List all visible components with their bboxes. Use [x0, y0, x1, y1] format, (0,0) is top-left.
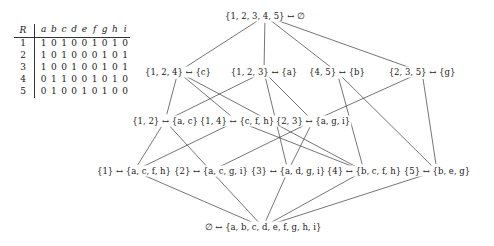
lattice-node-l3b[interactable]: {1, 4} ↔ {c, f, h}	[198, 116, 275, 127]
lattice-node-top[interactable]: {1, 2, 3, 4, 5} ↔ ∅	[224, 11, 307, 22]
lattice-node-l2c[interactable]: {4, 5} ↔ {b}	[308, 67, 367, 78]
lattice-node-l3a[interactable]: {1, 2} ↔ {a, c}	[131, 116, 200, 127]
lattice-node-l4c[interactable]: {3} ↔ {a, d, g, i}	[249, 166, 326, 177]
lattice-node-bot[interactable]: ∅ ↔ {a, b, c, d, e, f, g, h, i}	[203, 222, 323, 233]
lattice-edge	[140, 124, 230, 168]
lattice-edge	[269, 174, 358, 223]
lattice-edge	[271, 20, 332, 67]
lattice-node-l2d[interactable]: {2, 3, 5} ↔ {g}	[387, 67, 457, 78]
lattice-node-l4d[interactable]: {4} ↔ {b, c, f, h}	[325, 166, 402, 177]
lattice-edge	[291, 127, 310, 164]
lattice-edge	[167, 79, 176, 114]
lattice-edge	[216, 176, 258, 222]
lattice-edge	[140, 174, 256, 224]
lattice-edge	[184, 20, 259, 68]
lattice-node-l2a[interactable]: {1, 2, 4} ↔ {c}	[144, 67, 213, 78]
lattice-node-l2b[interactable]: {1, 2, 3} ↔ {a}	[229, 67, 298, 78]
lattice-node-l3c[interactable]: {2, 3} ↔ {a, g, i}	[274, 116, 351, 127]
lattice-edge	[272, 18, 416, 69]
lattice-edge	[264, 23, 265, 65]
lattice-edge	[423, 79, 436, 164]
lattice-edge	[170, 126, 207, 166]
lattice-edge	[171, 75, 257, 118]
lattice-node-l4b[interactable]: {2} ↔ {a, c, g, i}	[173, 166, 250, 177]
lattice-node-l4a[interactable]: {1} ↔ {a, c, f, h}	[96, 166, 173, 177]
lattice-edge	[266, 177, 285, 220]
lattice-node-l4e[interactable]: {5} ↔ {b, e, g}	[402, 166, 471, 177]
lattice-edge	[270, 173, 431, 225]
lattice-edge	[342, 77, 432, 166]
lattice-edge	[269, 77, 308, 116]
lattice-edge	[319, 75, 415, 118]
concept-lattice-figure: R a b c d e f g h i 1 1 0 1 0 0 1 0	[0, 0, 494, 246]
